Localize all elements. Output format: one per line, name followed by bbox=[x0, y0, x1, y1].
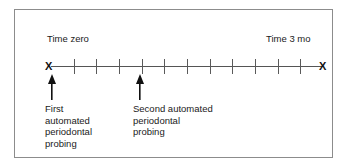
tick-mark bbox=[119, 59, 120, 74]
tick-mark bbox=[278, 59, 279, 74]
axis-start-label: Time zero bbox=[47, 33, 89, 44]
tick-mark bbox=[142, 59, 143, 74]
tick-mark bbox=[74, 59, 75, 74]
first-probing-caption: First automated periodontal probing bbox=[45, 103, 92, 149]
axis-end-label: Time 3 mo bbox=[266, 33, 311, 44]
tick-mark bbox=[164, 59, 165, 74]
first-probing-arrow-icon bbox=[47, 74, 57, 100]
tick-mark bbox=[187, 59, 188, 74]
second-probing-caption: Second automated periodontal probing bbox=[133, 103, 213, 138]
figure-border: Time zero Time 3 mo X X First automated … bbox=[14, 9, 333, 158]
second-probing-arrow-icon bbox=[135, 74, 145, 100]
tick-mark bbox=[232, 59, 233, 74]
tick-mark bbox=[96, 59, 97, 74]
tick-mark bbox=[255, 59, 256, 74]
axis-end-marker-x: X bbox=[319, 59, 326, 73]
tick-mark bbox=[210, 59, 211, 74]
timeline-figure: Time zero Time 3 mo X X First automated … bbox=[0, 0, 346, 168]
axis-start-marker-x: X bbox=[45, 59, 52, 73]
tick-mark bbox=[300, 59, 301, 74]
